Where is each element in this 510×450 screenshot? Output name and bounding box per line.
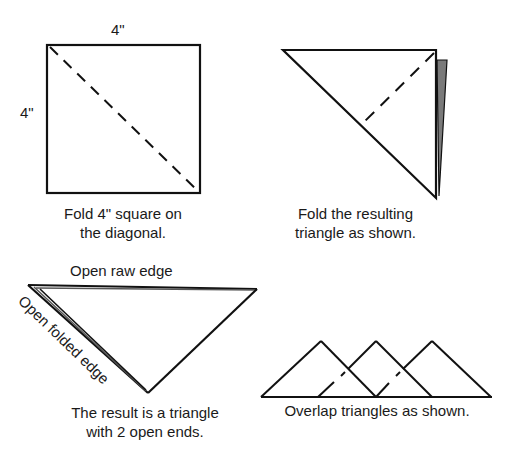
step1-caption-line2: the diagonal.: [48, 223, 198, 242]
step2-caption: Fold the resulting triangle as shown.: [283, 204, 428, 242]
step3-caption-line2: with 2 open ends.: [45, 422, 245, 441]
dimension-left-label: 4": [20, 104, 34, 122]
step3-caption: The result is a triangle with 2 open end…: [45, 403, 245, 441]
step1-caption-line1: Fold 4" square on: [48, 204, 198, 223]
step1-caption: Fold 4" square on the diagonal.: [48, 204, 198, 242]
step4-overlapping-triangles: [261, 341, 492, 397]
step3-caption-line1: The result is a triangle: [45, 403, 245, 422]
open-raw-edge-label: Open raw edge: [70, 262, 173, 280]
step1-square: [47, 45, 200, 193]
step2-caption-line1: Fold the resulting: [283, 204, 428, 223]
dimension-top-label: 4": [111, 21, 125, 39]
step2-caption-line2: triangle as shown.: [283, 223, 428, 242]
step4-caption: Overlap triangles as shown.: [257, 401, 497, 420]
step2-triangle: [283, 50, 447, 198]
